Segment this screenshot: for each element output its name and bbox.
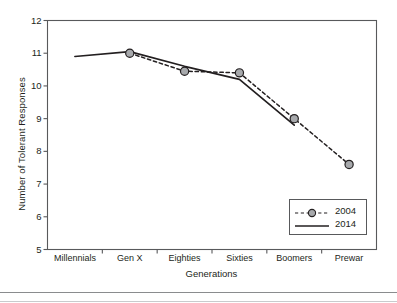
x-tick-label: Boomers bbox=[276, 253, 312, 263]
footer-divider bbox=[0, 292, 397, 293]
y-tick-label: 12 bbox=[16, 16, 42, 26]
x-tick-label: Millennials bbox=[54, 253, 96, 263]
legend-swatch-solid bbox=[294, 218, 330, 230]
y-tick-label: 6 bbox=[16, 212, 42, 222]
chart-figure: Number of Tolerant Responses Generations… bbox=[0, 0, 397, 303]
y-tick-label: 8 bbox=[16, 146, 42, 156]
y-tick-label: 10 bbox=[16, 81, 42, 91]
y-tick-label: 11 bbox=[16, 48, 42, 58]
legend-label-2014: 2014 bbox=[335, 218, 356, 230]
x-tick-label: Sixties bbox=[226, 253, 253, 263]
footer-divider-secondary bbox=[0, 301, 397, 302]
y-tick-label: 5 bbox=[16, 245, 42, 255]
legend-item-2004[interactable]: 2004 bbox=[294, 204, 361, 217]
y-tick-label: 9 bbox=[16, 114, 42, 124]
x-tick-label: Eighties bbox=[169, 253, 201, 263]
legend-swatch-dashed-marker bbox=[294, 205, 330, 217]
chart-legend[interactable]: 2004 2014 bbox=[289, 199, 367, 235]
y-tick-label: 7 bbox=[16, 179, 42, 189]
legend-item-2014[interactable]: 2014 bbox=[294, 217, 361, 230]
x-tick-label: Gen X bbox=[117, 253, 143, 263]
legend-label-2004: 2004 bbox=[335, 205, 356, 217]
x-tick-label: Prewar bbox=[335, 253, 364, 263]
